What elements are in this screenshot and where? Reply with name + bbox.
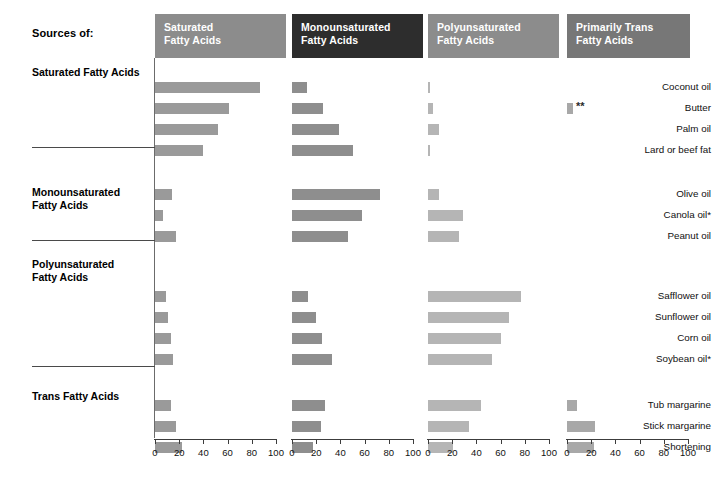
bar bbox=[292, 442, 313, 453]
footnote-mark: ** bbox=[576, 102, 585, 110]
row-label: Lard or beef fat bbox=[645, 144, 711, 155]
axis-tick-label: 20 bbox=[447, 447, 458, 458]
axis-tick-label: 40 bbox=[471, 447, 482, 458]
axis-tick bbox=[640, 439, 641, 444]
x-axis-monounsaturated bbox=[291, 439, 414, 440]
axis-tick-label: 40 bbox=[610, 447, 621, 458]
group-separator bbox=[32, 240, 155, 241]
axis-tick-label: 80 bbox=[384, 447, 395, 458]
axis-tick-label: 80 bbox=[247, 447, 258, 458]
row-label: Safflower oil bbox=[658, 290, 711, 301]
axis-tick bbox=[567, 439, 568, 444]
group-title-3: Trans Fatty Acids bbox=[32, 390, 119, 403]
axis-tick bbox=[413, 439, 414, 444]
bar bbox=[428, 82, 430, 93]
x-axis-polyunsaturated bbox=[427, 439, 550, 440]
group-separator bbox=[32, 366, 155, 367]
bar bbox=[292, 231, 348, 242]
bar bbox=[428, 291, 521, 302]
axis-tick bbox=[276, 439, 277, 444]
axis-tick bbox=[252, 439, 253, 444]
axis-tick bbox=[365, 439, 366, 444]
bar bbox=[155, 124, 218, 135]
axis-tick-label: 80 bbox=[659, 447, 670, 458]
axis-tick-label: 100 bbox=[680, 447, 696, 458]
row-label: Olive oil bbox=[676, 188, 711, 199]
page-title: Sources of: bbox=[32, 27, 94, 39]
bar bbox=[155, 354, 173, 365]
axis-tick bbox=[316, 439, 317, 444]
bar bbox=[428, 145, 430, 156]
bar bbox=[155, 291, 166, 302]
bar bbox=[428, 400, 481, 411]
bar bbox=[292, 354, 332, 365]
row-label: Coconut oil bbox=[662, 81, 711, 92]
axis-tick-label: 40 bbox=[335, 447, 346, 458]
axis-tick bbox=[203, 439, 204, 444]
axis-tick bbox=[228, 439, 229, 444]
axis-tick-label: 100 bbox=[541, 447, 557, 458]
bar bbox=[155, 400, 171, 411]
bar bbox=[428, 103, 433, 114]
bar bbox=[567, 421, 595, 432]
group-separator bbox=[32, 147, 155, 148]
axis-tick-label: 0 bbox=[564, 447, 569, 458]
bar bbox=[428, 124, 439, 135]
axis-tick bbox=[340, 439, 341, 444]
axis-tick-label: 100 bbox=[268, 447, 284, 458]
axis-tick-label: 80 bbox=[520, 447, 531, 458]
bar bbox=[155, 421, 176, 432]
x-axis-trans bbox=[566, 439, 689, 440]
bar bbox=[292, 400, 325, 411]
row-label: Soybean oil* bbox=[656, 353, 711, 364]
axis-tick-label: 0 bbox=[425, 447, 430, 458]
bar bbox=[428, 421, 469, 432]
axis-tick bbox=[664, 439, 665, 444]
axis-tick-label: 40 bbox=[198, 447, 209, 458]
axis-tick bbox=[428, 439, 429, 444]
axis-tick-label: 20 bbox=[174, 447, 185, 458]
bar bbox=[155, 312, 168, 323]
bar bbox=[567, 400, 577, 411]
group-title-0: Saturated Fatty Acids bbox=[32, 66, 140, 79]
axis-tick bbox=[688, 439, 689, 444]
row-label: Peanut oil bbox=[667, 230, 711, 241]
panel-header-monounsaturated: Monounsaturated Fatty Acids bbox=[292, 14, 423, 58]
axis-tick-label: 0 bbox=[152, 447, 157, 458]
axis-tick bbox=[292, 439, 293, 444]
label-column-divider bbox=[154, 58, 155, 438]
panel-header-polyunsaturated: Polyunsaturated Fatty Acids bbox=[428, 14, 559, 58]
axis-tick-label: 20 bbox=[586, 447, 597, 458]
bar bbox=[292, 291, 308, 302]
axis-tick bbox=[155, 439, 156, 444]
row-label: Palm oil bbox=[676, 123, 711, 134]
axis-tick bbox=[452, 439, 453, 444]
axis-tick-label: 60 bbox=[359, 447, 370, 458]
axis-tick-label: 60 bbox=[222, 447, 233, 458]
bar bbox=[292, 103, 323, 114]
bar bbox=[292, 145, 353, 156]
axis-tick bbox=[615, 439, 616, 444]
axis-tick bbox=[476, 439, 477, 444]
bar bbox=[292, 189, 380, 200]
axis-tick bbox=[591, 439, 592, 444]
axis-tick bbox=[389, 439, 390, 444]
axis-tick bbox=[525, 439, 526, 444]
bar bbox=[155, 231, 176, 242]
panel-header-saturated: Saturated Fatty Acids bbox=[155, 14, 286, 58]
bar bbox=[292, 333, 322, 344]
bar bbox=[567, 103, 573, 114]
row-label: Canola oil* bbox=[664, 209, 711, 220]
bar bbox=[155, 210, 163, 221]
row-label: Sunflower oil bbox=[655, 311, 711, 322]
group-title-2: Polyunsaturated Fatty Acids bbox=[32, 258, 114, 283]
bar bbox=[428, 333, 501, 344]
group-title-1: Monounsaturated Fatty Acids bbox=[32, 186, 120, 211]
row-label: Tub margarine bbox=[648, 399, 711, 410]
axis-tick-label: 0 bbox=[289, 447, 294, 458]
axis-tick-label: 100 bbox=[405, 447, 421, 458]
panel-header-trans: Primarily Trans Fatty Acids bbox=[567, 14, 690, 58]
axis-tick bbox=[549, 439, 550, 444]
axis-tick-label: 60 bbox=[634, 447, 645, 458]
fatty-acid-sources-chart: Sources of: Saturated Fatty AcidsMonouns… bbox=[0, 0, 719, 490]
